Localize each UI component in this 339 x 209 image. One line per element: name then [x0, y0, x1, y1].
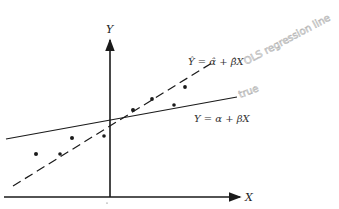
ols-annotation: OLS regression line [242, 12, 332, 67]
regression-diagram: X Y Ŷ = α̂ + β̂X Y = α + βX OLS regressi… [0, 0, 339, 209]
data-point [34, 152, 38, 156]
ols-regression-line [13, 61, 215, 186]
data-point [131, 108, 135, 112]
data-point [183, 85, 187, 89]
data-point [172, 103, 176, 107]
y-axis-label: Y [106, 23, 115, 36]
data-point [102, 134, 106, 138]
ols-equation: Ŷ = α̂ + β̂X [188, 56, 245, 67]
data-point [70, 136, 74, 140]
origin-tick [106, 202, 107, 203]
x-axis-label: X [244, 191, 254, 204]
true-annotation: true [237, 83, 260, 100]
data-point [58, 152, 62, 156]
data-point [150, 97, 154, 101]
true-equation: Y = α + βX [194, 113, 251, 124]
